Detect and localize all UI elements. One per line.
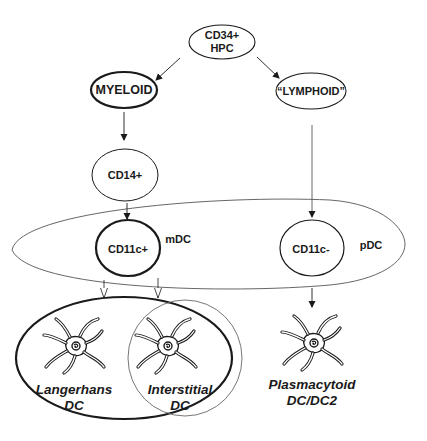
interstitial-label: Interstitial DC xyxy=(148,382,213,414)
mdc-label: mDC xyxy=(165,233,191,246)
plasmacytoid-label: Plasmacytoid DC/DC2 xyxy=(268,377,355,409)
cd14-label: CD14+ xyxy=(108,169,143,182)
lineage-diagram xyxy=(0,0,427,441)
langerhans-label-line2: DC xyxy=(36,398,113,414)
arrow-hpc-lymphoid xyxy=(257,57,279,78)
lymphoid-label: “LYMPHOID” xyxy=(277,85,345,98)
langerhans-cell-icon xyxy=(44,319,104,373)
langerhans-label-line1: Langerhans xyxy=(36,382,113,398)
cd11c-neg-label: CD11c- xyxy=(292,243,329,256)
pdc-label: pDC xyxy=(360,239,383,252)
hpc-label: CD34+ HPC xyxy=(205,29,240,54)
plasmacytoid-cell-icon xyxy=(282,316,342,370)
plasmacytoid-label-line1: Plasmacytoid xyxy=(268,377,355,393)
dc-group-ellipse xyxy=(12,199,405,289)
hpc-label-line2: HPC xyxy=(205,42,240,55)
figure-caption-cutoff xyxy=(0,436,427,441)
hpc-label-line1: CD34+ xyxy=(205,29,240,42)
interstitial-label-line1: Interstitial xyxy=(148,382,213,398)
plasmacytoid-label-line2: DC/DC2 xyxy=(268,393,355,409)
interstitial-cell-icon xyxy=(136,319,196,373)
langerhans-label: Langerhans DC xyxy=(36,382,113,414)
arrow-hpc-myeloid xyxy=(156,58,180,80)
myeloid-label: MYELOID xyxy=(96,83,153,97)
interstitial-label-line2: DC xyxy=(148,398,213,414)
cd11c-pos-label: CD11c+ xyxy=(108,243,148,256)
